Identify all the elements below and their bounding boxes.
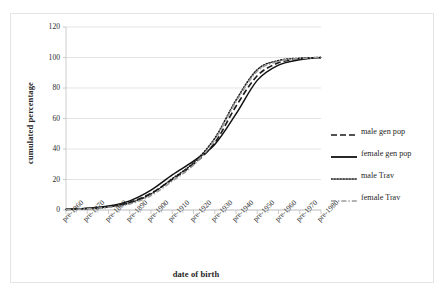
legend-item[interactable]: female Trav (331, 186, 444, 208)
y-tick-label: 20 (32, 175, 60, 184)
y-axis-title: cumulated percentage (25, 58, 35, 188)
y-tick-label: 100 (32, 53, 60, 62)
series-line-3 (66, 58, 321, 210)
y-tick-label: 0 (32, 205, 60, 214)
y-tick-label: 120 (32, 22, 60, 31)
series-line-0 (66, 58, 321, 210)
y-tick-label: 80 (32, 83, 60, 92)
series-line-1 (66, 58, 321, 210)
legend-item[interactable]: female gen pop (331, 142, 444, 164)
legend-item[interactable]: male gen pop (331, 120, 444, 142)
chart-legend: male gen popfemale gen popmale Travfemal… (331, 120, 444, 208)
chart-frame: cumulated percentage date of birth 02040… (10, 13, 434, 283)
legend-item-label: male Trav (361, 171, 394, 180)
legend-item[interactable]: male Trav (331, 164, 444, 186)
series-line-2 (66, 58, 321, 210)
x-axis-title: date of birth (71, 269, 321, 279)
legend-item-label: female gen pop (361, 149, 411, 158)
legend-line-swatch (331, 148, 357, 158)
y-tick-label: 40 (32, 144, 60, 153)
legend-line-swatch (331, 170, 357, 180)
legend-line-swatch (331, 192, 357, 202)
legend-item-label: female Trav (361, 193, 400, 202)
y-tick-label: 60 (32, 114, 60, 123)
figure-container: cumulated percentage date of birth 02040… (0, 0, 444, 296)
legend-line-swatch (331, 126, 357, 136)
legend-item-label: male gen pop (361, 127, 405, 136)
